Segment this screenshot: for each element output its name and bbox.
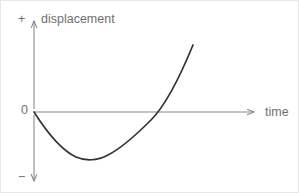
plot-canvas xyxy=(1,1,299,193)
negative-axis-sign: − xyxy=(18,171,25,184)
displacement-curve xyxy=(34,45,193,160)
y-axis-label: displacement xyxy=(41,13,115,26)
origin-label: 0 xyxy=(21,104,28,117)
x-axis-label: time xyxy=(265,106,289,119)
positive-axis-sign: + xyxy=(18,13,25,26)
displacement-time-figure: + displacement 0 − time xyxy=(0,0,299,193)
